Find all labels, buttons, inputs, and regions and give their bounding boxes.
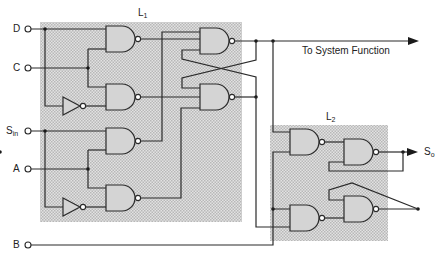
input-label-c: C: [13, 63, 20, 73]
arrow-to-system-function: [408, 37, 419, 45]
input-terminal-a[interactable]: [25, 166, 31, 172]
input-label-d: D: [13, 24, 20, 34]
input-terminal-d[interactable]: [25, 26, 31, 32]
input-label-b: B: [13, 240, 20, 250]
output-label-system-function: To System Function: [302, 46, 390, 56]
output-label-so: So: [424, 147, 435, 160]
input-terminal-b[interactable]: [25, 242, 31, 248]
arrow-so: [407, 148, 418, 156]
input-terminal-c[interactable]: [25, 65, 31, 71]
block-label-l1: L1: [138, 8, 147, 21]
input-label-a: A: [13, 164, 20, 174]
block-label-l2: L2: [326, 112, 335, 125]
input-label-sin: Sin: [6, 126, 18, 139]
circuit-diagram: [0, 0, 445, 259]
input-terminal-sin[interactable]: [25, 128, 31, 134]
